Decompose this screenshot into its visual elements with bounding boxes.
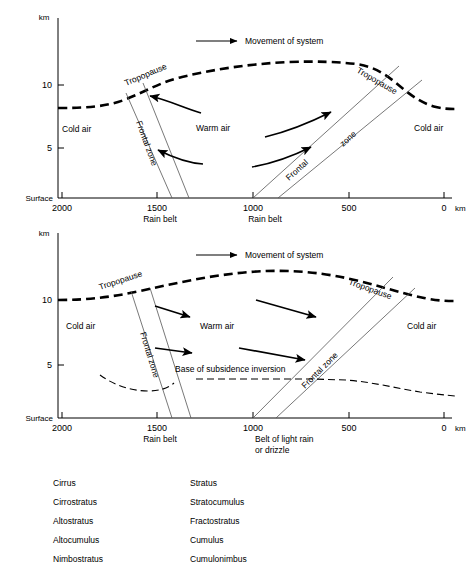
y-axis-unit-label-bottom: km xyxy=(39,229,50,238)
warm-air-label-top: Warm air xyxy=(196,123,230,133)
flow-arrow-forward-upper-top xyxy=(265,112,331,137)
frontal-label-right-top: Frontal xyxy=(284,157,310,182)
cloud-type-legend: Cirrus Cirrostratus Altostratus Altocumu… xyxy=(53,478,247,564)
x-tick-label-1500-top: 1500 xyxy=(147,203,167,213)
movement-of-system-label-top: Movement of system xyxy=(245,36,323,46)
x-tick-label-2000-bottom: 2000 xyxy=(52,423,72,433)
flow-arrow-mid-left-bottom xyxy=(155,348,192,353)
x-tick-label-500-top: 500 xyxy=(341,203,356,213)
flow-arrow-rear-upper-top xyxy=(150,96,201,113)
x-tick-label-1500-bottom: 1500 xyxy=(147,423,167,433)
cloud-name-fractostratus: Fractostratus xyxy=(190,516,240,526)
figure-canvas: km 10 5 Surface 2000 1500 1000 500 0 km … xyxy=(0,0,473,583)
frontal-zone-label-left-bottom: Frontal zone xyxy=(138,331,161,379)
x-tick-label-0-top: 0 xyxy=(441,203,446,213)
x-axis-unit-label-top: km xyxy=(455,204,466,213)
light-rain-label-line2: or drizzle xyxy=(255,445,290,455)
zone-label-right-top: zone xyxy=(338,129,359,149)
y-tick-label-10-top: 10 xyxy=(42,80,52,90)
x-tick-label-1000-bottom: 1000 xyxy=(243,423,263,433)
tropopause-label-left-bottom: Tropopause xyxy=(98,268,144,292)
cloud-name-stratus: Stratus xyxy=(190,478,217,488)
surface-label-top: Surface xyxy=(25,194,53,203)
cloud-name-cumulus: Cumulus xyxy=(190,535,224,545)
cloud-name-cirrostratus: Cirrostratus xyxy=(53,497,97,507)
surface-label-bottom: Surface xyxy=(25,414,53,423)
cold-front-lower-boundary-bottom xyxy=(150,288,191,418)
x-tick-label-500-bottom: 500 xyxy=(341,423,356,433)
cloud-name-altocumulus: Altocumulus xyxy=(53,535,99,545)
cold-air-label-right-bottom: Cold air xyxy=(407,321,436,331)
frontal-zone-label-left-top: Frontal zone xyxy=(134,119,160,167)
cold-air-label-left-bottom: Cold air xyxy=(66,321,95,331)
flow-arrow-rear-mid-top xyxy=(158,150,203,164)
y-axis-unit-label-top: km xyxy=(39,13,50,22)
y-tick-label-10-bottom: 10 xyxy=(42,295,52,305)
tropopause-label-right-bottom: Tropopause xyxy=(347,276,393,301)
light-rain-label-line1: Belt of light rain xyxy=(255,434,314,444)
rain-belt-label-bottom: Rain belt xyxy=(143,434,177,444)
cloud-name-nimbostratus: Nimbostratus xyxy=(53,554,103,564)
tropopause-label-left-top: Tropopause xyxy=(123,61,169,88)
flow-arrow-upper-left-bottom xyxy=(155,306,190,317)
y-tick-label-5-bottom: 5 xyxy=(47,360,52,370)
warm-air-label-bottom: Warm air xyxy=(200,321,234,331)
diagram-top: km 10 5 Surface 2000 1500 1000 500 0 km … xyxy=(25,13,466,224)
x-axis-unit-label-bottom: km xyxy=(455,424,466,433)
frontal-cross-section-figure: km 10 5 Surface 2000 1500 1000 500 0 km … xyxy=(0,0,473,583)
axes-bottom xyxy=(58,233,452,418)
cold-air-label-left-top: Cold air xyxy=(62,124,91,134)
subsidence-inversion-left-cell xyxy=(100,375,174,391)
movement-of-system-label-bottom: Movement of system xyxy=(245,250,323,260)
flow-arrow-upper-right-bottom xyxy=(256,300,316,317)
x-tick-label-0-bottom: 0 xyxy=(441,423,446,433)
y-tick-label-5-top: 5 xyxy=(47,143,52,153)
flow-arrow-mid-right-bottom xyxy=(239,348,305,360)
cloud-name-cumulonimbus: Cumulonimbus xyxy=(190,554,247,564)
subsidence-inversion-main xyxy=(196,379,455,396)
warm-front-upper-boundary-bottom xyxy=(276,288,415,418)
cloud-name-stratocumulus: Stratocumulus xyxy=(190,497,244,507)
cloud-name-altostratus: Altostratus xyxy=(53,516,93,526)
frontal-zone-label-right-bottom: Frontal zone xyxy=(299,350,340,391)
diagram-bottom: km 10 5 Surface 2000 1500 1000 500 0 km … xyxy=(25,229,466,455)
warm-front-lower-boundary-bottom xyxy=(253,277,393,418)
subsidence-inversion-label: Base of subsidence inversion xyxy=(175,364,286,374)
x-tick-label-2000-top: 2000 xyxy=(52,203,72,213)
cloud-name-cirrus: Cirrus xyxy=(53,478,76,488)
x-tick-label-1000-top: 1000 xyxy=(243,203,263,213)
cold-air-label-right-top: Cold air xyxy=(414,123,443,133)
rain-belt-label-left-top: Rain belt xyxy=(143,214,177,224)
rain-belt-label-right-top: Rain belt xyxy=(248,214,282,224)
